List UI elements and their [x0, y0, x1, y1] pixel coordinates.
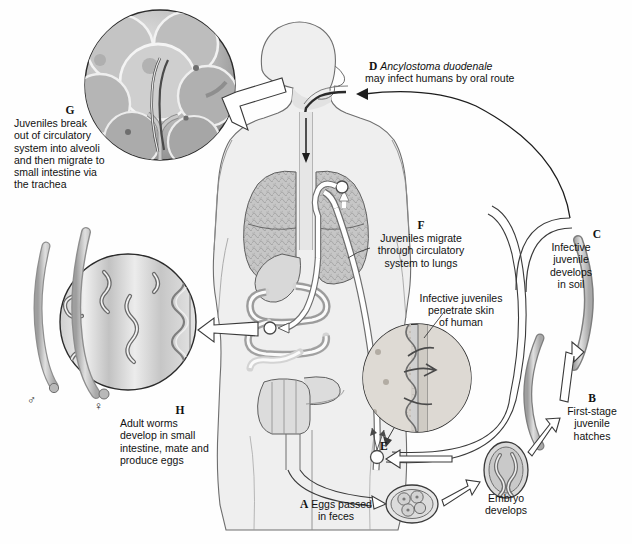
stage-f-line1: Juveniles migrate: [360, 232, 482, 244]
egg-illustration: [386, 485, 438, 523]
stage-f-line2: through circulatory: [360, 244, 482, 256]
stage-key-h: H: [176, 404, 185, 416]
skin-line2: penetrate skin: [402, 304, 520, 316]
species-name: Ancylostoma duodenale: [380, 60, 492, 72]
stage-c-line3: develops: [536, 266, 606, 278]
male-symbol: ♂: [27, 394, 36, 406]
embryo-illustration: [484, 442, 528, 498]
stage-c-line4: in soil: [536, 278, 606, 290]
stage-label-h: H Adult worms develop in small intestine…: [120, 404, 240, 466]
embryo-label: Embryo develops: [472, 492, 540, 516]
stage-g-line5: small intestine via: [14, 166, 126, 178]
stage-label-e: E: [380, 440, 388, 452]
stage-key-f: F: [417, 219, 424, 231]
stage-label-g: G Juveniles break out of circulatory sys…: [14, 104, 126, 190]
skin-penetration-label: Infective juveniles penetrate skin of hu…: [402, 292, 520, 329]
stage-a-line2: in feces: [284, 510, 388, 522]
stage-h-line3: intestine, mate and: [120, 442, 240, 454]
stage-key-c: C: [593, 228, 601, 240]
stage-key-a: A: [300, 498, 308, 510]
stage-c-line2: juvenile: [536, 253, 606, 265]
stage-label-a: A Eggs passed in feces: [284, 498, 388, 522]
stage-g-line1: Juveniles break: [14, 117, 126, 129]
stage-label-f: F Juveniles migrate through circulatory …: [360, 219, 482, 269]
skin-line3: of human: [402, 316, 520, 328]
circulatory-node: [336, 181, 348, 193]
stage-f-line3: system to lungs: [360, 257, 482, 269]
female-symbol: ♀: [94, 400, 103, 412]
stage-label-b: B First-stage juvenile hatches: [556, 392, 628, 442]
stage-label-d: D Ancylostoma duodenale may infect human…: [369, 60, 569, 84]
stage-h-line1: Adult worms: [120, 417, 240, 429]
stage-g-line4: and then migrate to: [14, 154, 126, 166]
stage-h-line4: produce eggs: [120, 454, 240, 466]
stage-c-line1: Infective: [536, 241, 606, 253]
stage-key-e: E: [380, 440, 388, 452]
stage-g-line3: system into alveoli: [14, 142, 126, 154]
stage-b-line1: First-stage: [556, 405, 628, 417]
first-stage-juvenile-worm: [528, 338, 540, 446]
stage-key-b: B: [588, 392, 596, 404]
stage-b-line2: juvenile: [556, 417, 628, 429]
skin-entry-node: [371, 451, 384, 464]
stage-g-line2: out of circulatory: [14, 129, 126, 141]
stage-d-line2: may infect humans by oral route: [365, 72, 569, 84]
intestine-node: [264, 322, 276, 334]
skin-line1: Infective juveniles: [402, 292, 520, 304]
diagram-canvas: G Juveniles break out of circulatory sys…: [0, 0, 632, 544]
stage-b-line3: hatches: [556, 430, 628, 442]
stage-label-c: C Infective juvenile develops in soil: [536, 228, 606, 290]
embryo-line2: develops: [472, 504, 540, 516]
stage-key-d: D: [369, 60, 377, 72]
stage-h-line2: develop in small: [120, 429, 240, 441]
stage-g-line6: the trachea: [14, 178, 126, 190]
embryo-line1: Embryo: [472, 492, 540, 504]
stage-key-g: G: [66, 104, 75, 116]
stage-a-line1: Eggs passed: [311, 498, 372, 510]
